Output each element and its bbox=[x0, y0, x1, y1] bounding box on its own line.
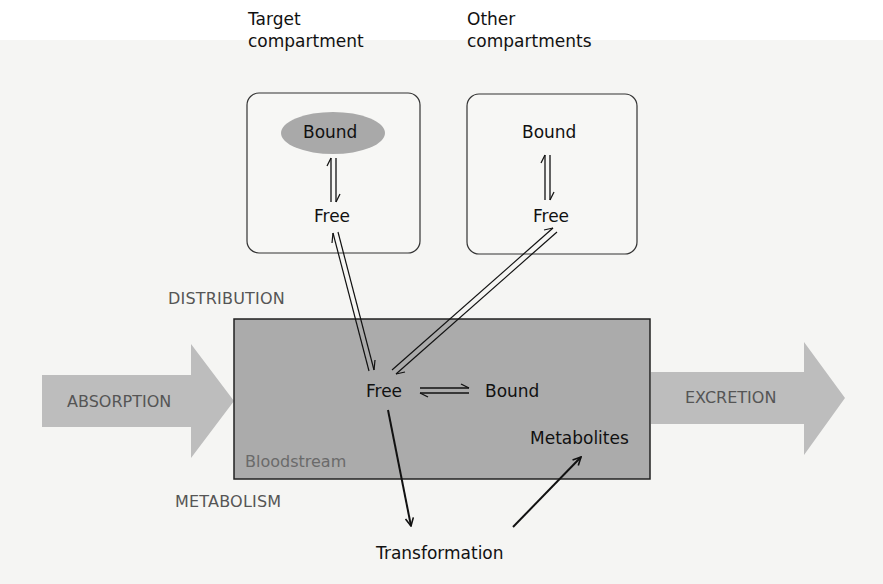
bloodstream-label: Bloodstream bbox=[245, 454, 346, 470]
other-heading-line2: compartments bbox=[467, 30, 592, 52]
transformation-label: Transformation bbox=[376, 545, 504, 562]
other-heading-line1: Other bbox=[467, 8, 592, 30]
target-compartment-heading: Target compartment bbox=[248, 8, 364, 52]
diagram-canvas bbox=[0, 0, 883, 584]
target-free-label: Free bbox=[314, 208, 350, 225]
excretion-label: EXCRETION bbox=[685, 390, 776, 406]
target-heading-line1: Target bbox=[248, 8, 364, 30]
distribution-label: DISTRIBUTION bbox=[168, 291, 285, 307]
other-compartments-heading: Other compartments bbox=[467, 8, 592, 52]
metabolism-label: METABOLISM bbox=[175, 494, 281, 510]
other-compartments-box bbox=[467, 94, 637, 254]
target-bound-label: Bound bbox=[303, 124, 357, 141]
absorption-label: ABSORPTION bbox=[67, 394, 171, 410]
other-free-label: Free bbox=[533, 208, 569, 225]
blood-free-label: Free bbox=[366, 383, 402, 400]
target-heading-line2: compartment bbox=[248, 30, 364, 52]
blood-bound-label: Bound bbox=[485, 383, 539, 400]
metabolites-label: Metabolites bbox=[530, 430, 629, 447]
other-bound-label: Bound bbox=[522, 124, 576, 141]
